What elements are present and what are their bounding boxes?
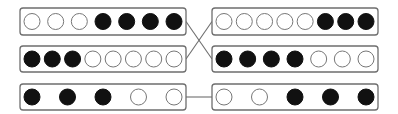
filled-dot-icon [263,51,279,67]
connectors [186,22,212,98]
filled-dot-icon [240,51,256,67]
empty-dot-icon [125,51,141,67]
filled-dot-icon [287,89,303,105]
empty-dot-icon [24,14,40,30]
filled-dot-icon [24,89,40,105]
empty-dot-icon [236,14,252,30]
filled-dot-icon [317,14,333,30]
filled-dot-icon [95,89,111,105]
empty-dot-icon [105,51,121,67]
filled-dot-icon [65,51,81,67]
dot-row-diagram [0,0,398,114]
filled-dot-icon [358,89,374,105]
empty-dot-icon [358,51,374,67]
filled-dot-icon [216,51,232,67]
empty-dot-icon [252,89,268,105]
left-dot-box [20,8,186,35]
empty-dot-icon [216,89,232,105]
empty-dot-icon [85,51,101,67]
empty-dot-icon [71,14,87,30]
empty-dot-icon [277,14,293,30]
filled-dot-icon [323,89,339,105]
left-dot-box [20,46,186,72]
right-dot-box [212,8,378,35]
filled-dot-icon [142,14,158,30]
empty-dot-icon [334,51,350,67]
right-dot-box [212,46,378,72]
filled-dot-icon [166,14,182,30]
filled-dot-icon [119,14,135,30]
filled-dot-icon [338,14,354,30]
empty-dot-icon [297,14,313,30]
filled-dot-icon [358,14,374,30]
filled-dot-icon [287,51,303,67]
empty-dot-icon [131,89,147,105]
empty-dot-icon [166,89,182,105]
filled-dot-icon [60,89,76,105]
empty-dot-icon [48,14,64,30]
filled-dot-icon [95,14,111,30]
boxes [20,8,378,110]
empty-dot-icon [146,51,162,67]
empty-dot-icon [166,51,182,67]
empty-dot-icon [216,14,232,30]
empty-dot-icon [257,14,273,30]
right-dot-box [212,84,378,110]
left-dot-box [20,84,186,110]
filled-dot-icon [24,51,40,67]
empty-dot-icon [311,51,327,67]
filled-dot-icon [44,51,60,67]
